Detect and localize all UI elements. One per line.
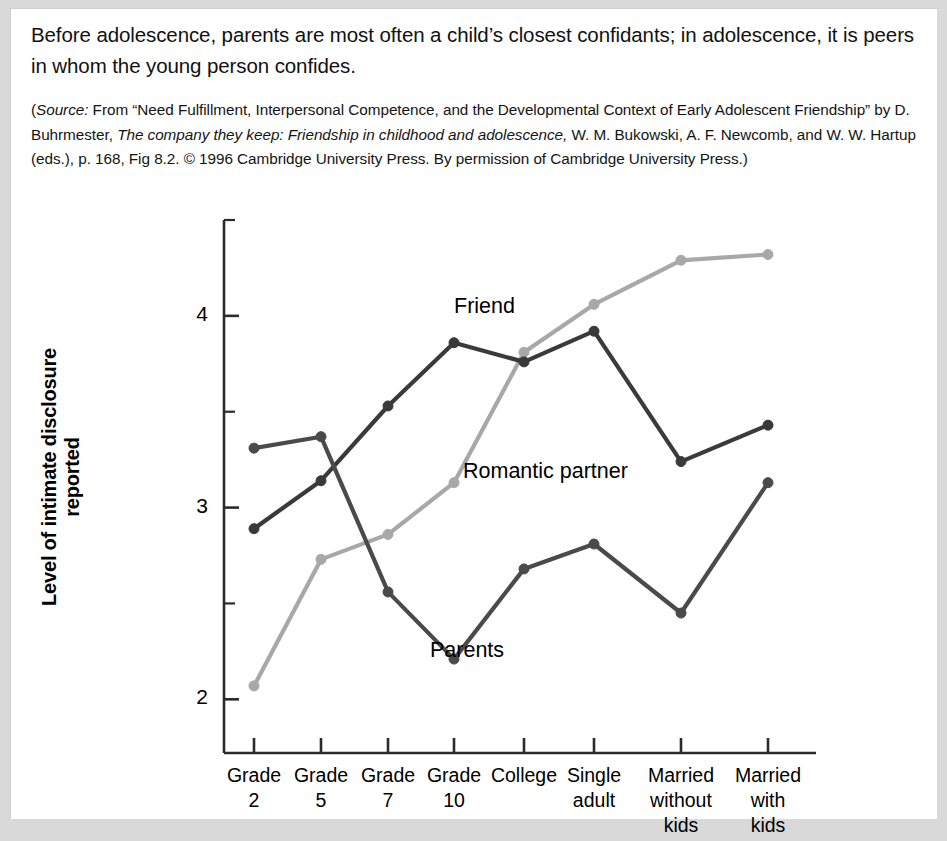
figure-page: Before adolescence, parents are most oft…	[0, 0, 947, 841]
data-point-friend	[249, 524, 259, 534]
caption-block: Before adolescence, parents are most oft…	[31, 19, 917, 172]
data-point-parents	[316, 432, 326, 442]
data-point-romantic-partner	[449, 478, 459, 488]
x-tick-label-line: kids	[713, 813, 823, 838]
caption-main-text: Before adolescence, parents are most oft…	[31, 19, 917, 81]
data-point-parents	[519, 564, 529, 574]
y-tick-label: 2	[168, 685, 208, 709]
source-note: (Source: From “Need Fulfillment, Interpe…	[31, 98, 917, 172]
data-point-friend	[519, 357, 529, 367]
y-tick-label: 4	[168, 302, 208, 326]
data-point-parents	[589, 539, 599, 549]
x-tick-label: Marriedwithkids	[713, 763, 823, 838]
data-point-romantic-partner	[763, 250, 773, 260]
series-label-friend: Friend	[454, 294, 515, 319]
series-line-friend	[254, 331, 768, 529]
data-point-romantic-partner	[383, 529, 393, 539]
data-point-romantic-partner	[676, 255, 686, 265]
data-point-friend	[383, 401, 393, 411]
data-point-friend	[676, 457, 686, 467]
figure-card: Before adolescence, parents are most oft…	[10, 8, 937, 819]
data-point-parents	[383, 587, 393, 597]
line-chart: Level of intimate disclosure reported 23…	[11, 204, 938, 820]
data-point-romantic-partner	[589, 299, 599, 309]
data-point-parents	[763, 478, 773, 488]
series-label-parents: Parents	[430, 638, 504, 663]
data-point-romantic-partner	[519, 347, 529, 357]
data-point-friend	[449, 338, 459, 348]
x-tick-label-line: 10	[399, 788, 509, 813]
source-label: Source:	[36, 101, 88, 118]
source-book-title: The company they keep: Friendship in chi…	[117, 126, 567, 143]
data-point-friend	[589, 326, 599, 336]
y-tick-label: 3	[168, 494, 208, 518]
data-point-parents	[676, 608, 686, 618]
series-label-romantic-partner: Romantic partner	[463, 459, 628, 484]
data-point-romantic-partner	[249, 681, 259, 691]
x-tick-label-line: with	[713, 788, 823, 813]
x-tick-label-line: Married	[713, 763, 823, 788]
data-point-friend	[763, 420, 773, 430]
data-point-friend	[316, 476, 326, 486]
data-point-parents	[249, 443, 259, 453]
data-point-romantic-partner	[316, 554, 326, 564]
